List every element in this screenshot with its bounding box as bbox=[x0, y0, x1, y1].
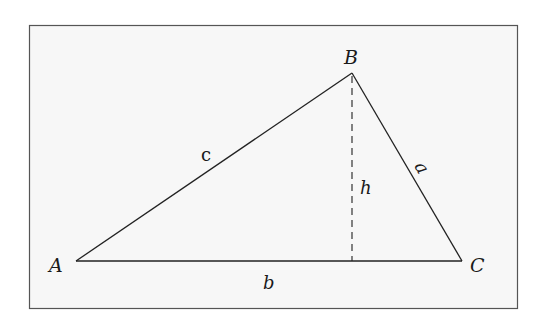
vertex-label-a: A bbox=[47, 254, 63, 276]
side-label-c: c bbox=[201, 144, 211, 165]
altitude-label-h: h bbox=[360, 177, 372, 198]
triangle-diagram: B A C c a b h bbox=[0, 0, 539, 323]
vertex-label-b: B bbox=[343, 46, 358, 68]
vertex-label-c: C bbox=[470, 254, 485, 276]
diagram-frame bbox=[30, 26, 518, 309]
side-label-b: b bbox=[263, 272, 275, 293]
